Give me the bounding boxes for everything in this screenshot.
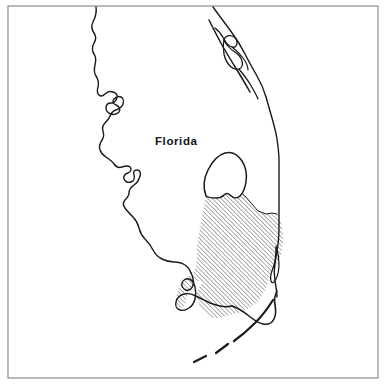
figure-border: [8, 6, 378, 378]
map-label-florida: Florida: [155, 135, 198, 147]
indian-river-lagoon: [209, 20, 258, 99]
lake-okeechobee: [204, 152, 246, 198]
florida-map: Florida: [0, 0, 387, 388]
figure-root: Florida: [0, 0, 387, 388]
